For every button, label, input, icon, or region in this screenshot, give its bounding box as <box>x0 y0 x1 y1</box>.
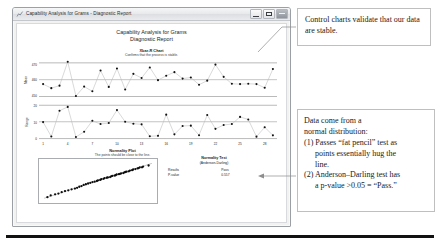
list-item: (1) Passes “fat pencil” test as <box>304 138 428 149</box>
report-title: Capability Analysis for Grams Diagnostic… <box>22 29 281 44</box>
normality-plot <box>38 158 158 204</box>
data-point <box>142 166 144 168</box>
data-point <box>70 188 72 190</box>
data-point <box>157 135 159 137</box>
annotation-normality: Data come from a normal distribution: (1… <box>297 109 435 212</box>
data-point <box>80 185 82 187</box>
data-point <box>83 131 85 133</box>
data-point <box>139 166 141 168</box>
annotation-bottom-lead1: Data come from a <box>304 116 428 127</box>
x-axis-tick: 7 <box>91 142 93 146</box>
data-point <box>57 193 59 195</box>
data-point <box>85 183 87 185</box>
data-point <box>173 134 175 136</box>
x-axis-tick: 13 <box>140 142 143 146</box>
data-point <box>141 124 143 126</box>
normality-test-table: Results Pass P-value 0.557 <box>168 168 260 178</box>
data-point <box>91 91 93 93</box>
data-point <box>247 119 249 121</box>
data-point <box>116 68 118 70</box>
data-point <box>94 181 96 183</box>
series-line <box>43 62 273 96</box>
x-axis-tick: 22 <box>214 142 217 146</box>
diagnostic-report: Capability Analysis for Grams Diagnostic… <box>17 24 286 222</box>
data-point <box>83 184 85 186</box>
y-axis-tick: 10 <box>34 121 37 125</box>
data-point <box>141 77 143 79</box>
maximize-button[interactable] <box>263 9 275 19</box>
data-point <box>74 188 76 190</box>
data-point <box>157 79 159 81</box>
data-point <box>132 73 134 75</box>
data-point <box>67 61 69 63</box>
list-item: a p-value >0.05 = “Pass.” <box>304 181 428 192</box>
x-axis-tick: 16 <box>164 142 167 146</box>
data-point <box>75 136 77 138</box>
data-point <box>165 75 167 77</box>
test-row-label: P-value <box>168 173 187 178</box>
data-point <box>149 136 151 138</box>
data-point <box>190 77 192 79</box>
data-point <box>78 186 80 188</box>
list-item: points essentially hug the <box>304 149 428 160</box>
data-point <box>67 106 69 108</box>
bottom-divider <box>6 235 434 238</box>
mean-control-chart: Mean 450460470 <box>22 58 281 102</box>
data-point <box>231 123 233 125</box>
x-axis-tick: 28 <box>263 142 266 146</box>
list-item: (2) Anderson–Darling test has <box>304 170 428 181</box>
data-point <box>46 196 48 198</box>
x-axis-tick: 19 <box>189 142 192 146</box>
data-point <box>42 83 44 85</box>
data-point <box>134 168 136 170</box>
data-point <box>100 70 102 72</box>
annotation-item2-a: (2) Anderson–Darling test has <box>304 170 400 179</box>
mean-axis-label: Mean <box>24 76 28 84</box>
minimize-button[interactable] <box>250 9 262 19</box>
data-point <box>120 173 122 175</box>
data-point <box>50 136 52 138</box>
range-plot-area: 0102014710131619222528 <box>39 103 277 141</box>
data-point <box>116 109 118 111</box>
normality-test-box: Normality Test (Anderson-Darling) Result… <box>168 156 260 178</box>
data-point <box>147 165 149 167</box>
data-point <box>264 87 266 89</box>
xbar-chart-subtitle: Confirms that the process is stable. <box>22 53 281 58</box>
normality-plot-svg <box>39 159 157 203</box>
annotation-item1-a: (1) Passes “fat pencil” test as <box>304 138 397 147</box>
data-point <box>91 120 93 122</box>
data-point <box>206 114 208 116</box>
data-point <box>64 190 66 192</box>
data-point <box>255 136 257 138</box>
annotation-item1-c: line. <box>315 160 329 169</box>
data-point <box>89 182 91 184</box>
data-point <box>125 171 127 173</box>
data-point <box>272 135 274 137</box>
data-point <box>100 123 102 125</box>
data-point <box>182 125 184 127</box>
data-point <box>264 126 266 128</box>
window-body: Capability Analysis for Grams Diagnostic… <box>16 23 287 223</box>
data-point <box>108 122 110 124</box>
close-button[interactable] <box>276 9 288 19</box>
data-point <box>182 78 184 80</box>
data-point <box>61 191 63 193</box>
chart-icon <box>16 10 24 18</box>
data-point <box>247 83 249 85</box>
y-axis-tick: 0 <box>35 137 37 141</box>
data-point <box>124 89 126 91</box>
screenshot-root: Capability Analysis for Grams - Diagnost… <box>0 0 438 246</box>
data-point <box>83 86 85 88</box>
window-controls <box>250 9 290 19</box>
data-point <box>129 170 131 172</box>
data-point <box>91 181 93 183</box>
report-title-line2: Diagnostic Report <box>22 36 281 43</box>
window-title: Capability Analysis for Grams - Diagnost… <box>26 12 132 17</box>
window-titlebar[interactable]: Capability Analysis for Grams - Diagnost… <box>13 8 290 21</box>
data-point <box>132 169 134 171</box>
data-point <box>108 86 110 88</box>
data-point <box>198 84 200 86</box>
data-point <box>173 71 175 73</box>
x-axis-tick: 10 <box>115 142 118 146</box>
table-row: P-value 0.557 <box>168 173 260 178</box>
